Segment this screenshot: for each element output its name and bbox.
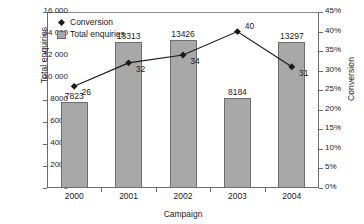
y-axis-right-tick-label: 5% (325, 162, 357, 171)
y-axis-left-tick-mark (43, 78, 47, 79)
y-axis-left-tick-mark (43, 34, 47, 35)
bar-2003[interactable] (224, 98, 251, 188)
y-axis-right-tick-mark (319, 168, 323, 169)
y-axis-right-tick-mark (319, 51, 323, 52)
y-axis-left-tick-mark (43, 12, 47, 13)
combo-chart: Total enquiries Conversion Campaign 0200… (0, 0, 364, 224)
legend-label-conversion: Conversion (70, 17, 113, 29)
conversion-value-label: 26 (73, 87, 99, 97)
square-swatch-icon (57, 31, 66, 39)
y-axis-left-tick-mark (43, 188, 47, 189)
y-axis-right-tick-label: 0% (325, 182, 357, 191)
y-axis-right-tick-mark (319, 90, 323, 91)
y-axis-right-tick-mark (319, 188, 323, 189)
y-axis-right-tick-label: 30% (325, 65, 357, 74)
bar-2004[interactable] (278, 42, 305, 188)
y-axis-left-tick-label: 16 000 (24, 6, 68, 15)
conversion-value-label: 32 (128, 64, 154, 74)
y-axis-right-tick-label: 20% (325, 104, 357, 113)
y-axis-right-tick-mark (319, 71, 323, 72)
x-axis-tick-label: 2002 (156, 191, 210, 201)
y-axis-right-tick-mark (319, 12, 323, 13)
bar-2000[interactable] (61, 102, 88, 188)
y-axis-right-tick-label: 45% (325, 6, 357, 15)
chart-legend: Conversion Total enquiries (57, 17, 125, 41)
x-axis-title: Campaign (47, 209, 319, 219)
y-axis-right-tick-label: 15% (325, 123, 357, 132)
y-axis-left-tick-label: 10 000 (24, 72, 68, 81)
diamond-marker-icon (57, 19, 66, 28)
y-axis-left-tick-mark (43, 144, 47, 145)
x-axis-tick-label: 2000 (47, 191, 101, 201)
y-axis-right-tick-mark (319, 110, 323, 111)
y-axis-right-tick-label: 40% (325, 26, 357, 35)
x-axis-tick-label: 2003 (210, 191, 264, 201)
conversion-value-label: 40 (236, 21, 262, 31)
x-axis-tick-label: 2004 (265, 191, 319, 201)
y-axis-right-tick-mark (319, 129, 323, 130)
legend-item-conversion: Conversion (57, 17, 125, 29)
y-axis-right-tick-mark (319, 149, 323, 150)
conversion-value-label: 31 (291, 68, 317, 78)
x-axis-tick-label: 2001 (102, 191, 156, 201)
y-axis-left-tick-label: 12 000 (24, 50, 68, 59)
legend-label-total-enquiries: Total enquiries (70, 29, 125, 41)
bar-value-label: 13297 (264, 31, 320, 41)
bar-value-label: 8184 (209, 87, 265, 97)
y-axis-left-tick-mark (43, 122, 47, 123)
y-axis-right-tick-label: 35% (325, 45, 357, 54)
y-axis-right-tick-label: 10% (325, 143, 357, 152)
bar-value-label: 13426 (155, 29, 211, 39)
y-axis-left-tick-mark (43, 166, 47, 167)
legend-item-total-enquiries: Total enquiries (57, 29, 125, 41)
conversion-value-label: 34 (182, 56, 208, 66)
y-axis-left-tick-mark (43, 56, 47, 57)
y-axis-right-tick-label: 25% (325, 84, 357, 93)
